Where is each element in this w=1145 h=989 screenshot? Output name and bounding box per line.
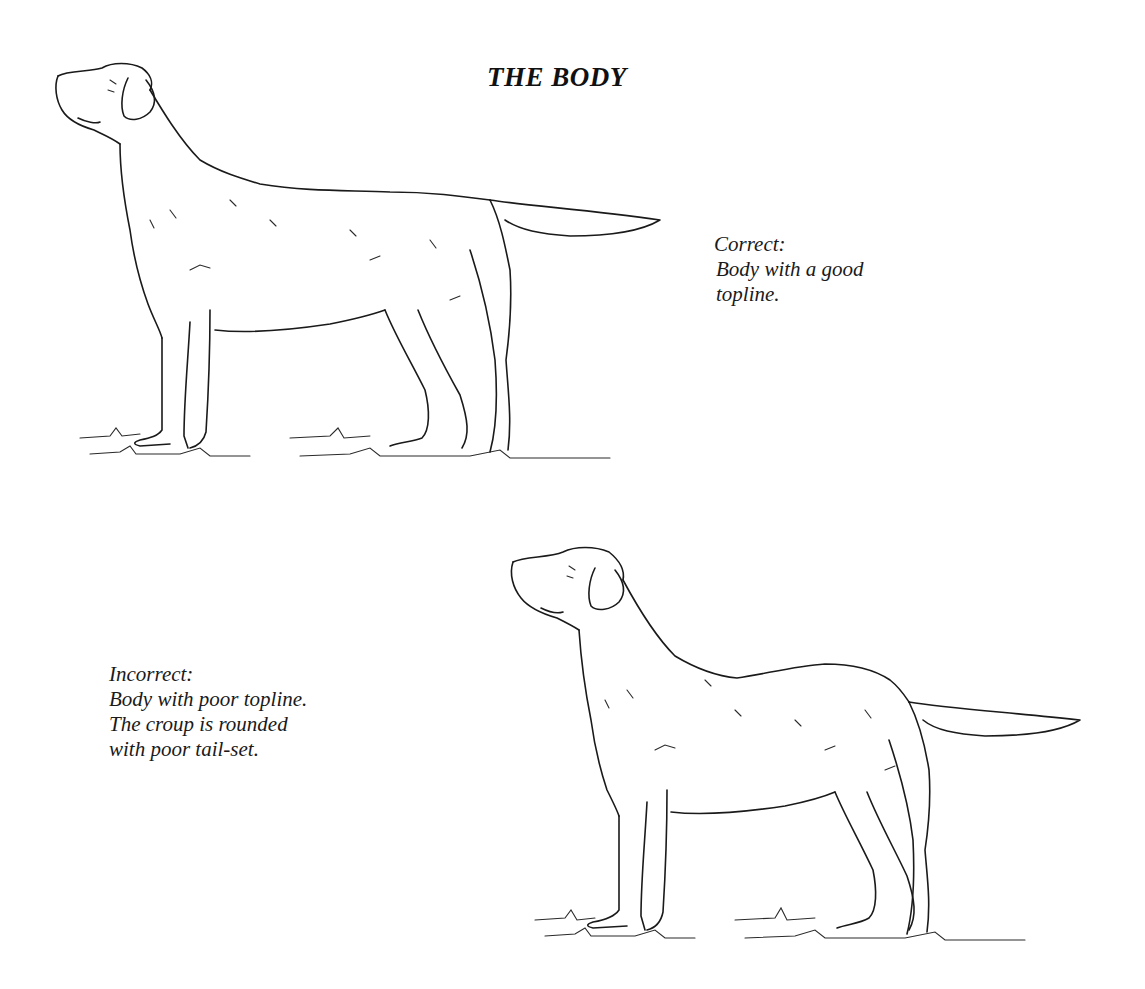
dog-outline-good-topline: [50, 60, 670, 480]
caption-incorrect-line-3: with poor tail-set.: [109, 737, 307, 762]
caption-incorrect: Incorrect: Body with poor topline. The c…: [109, 662, 307, 762]
caption-incorrect-line-2: The croup is rounded: [109, 712, 307, 737]
caption-incorrect-line-1: Body with poor topline.: [109, 687, 307, 712]
correct-dog-illustration: [50, 60, 670, 480]
incorrect-dog-illustration: [505, 540, 1095, 955]
caption-incorrect-label: Incorrect:: [109, 662, 307, 687]
caption-correct-label: Correct:: [714, 232, 864, 257]
caption-correct-line-1: Body with a good: [714, 257, 864, 282]
dog-outline-poor-topline: [505, 540, 1095, 955]
caption-correct-line-2: topline.: [714, 282, 864, 307]
caption-correct: Correct: Body with a good topline.: [714, 232, 864, 307]
